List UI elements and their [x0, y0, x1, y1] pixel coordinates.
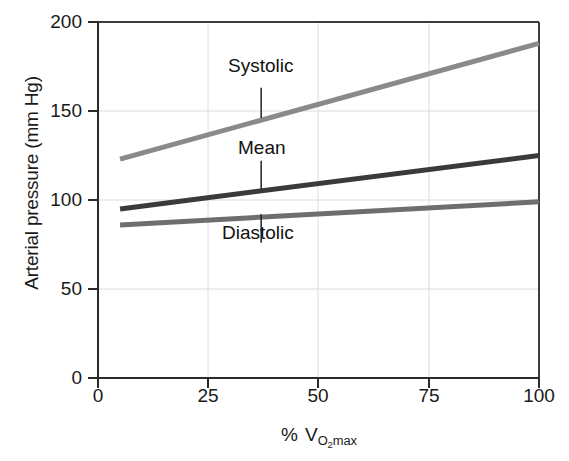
series-line-systolic	[120, 43, 539, 159]
x-axis-title-o-letter: O	[318, 433, 328, 448]
y-tick-150: 150	[30, 101, 82, 120]
x-axis-title-percent: %	[281, 424, 298, 445]
y-tick-200: 200	[30, 12, 82, 31]
x-axis-title-v: V	[305, 424, 318, 445]
x-tick-25: 25	[178, 385, 238, 407]
x-tick-50: 50	[288, 385, 348, 407]
x-tick-label: 25	[178, 385, 238, 407]
x-tick-label: 75	[399, 385, 459, 407]
y-tick-label: 150	[30, 101, 82, 120]
series-annotation-mean: Mean	[238, 137, 286, 159]
x-axis-title: %VO2max	[98, 424, 540, 450]
y-axis-ticks	[88, 22, 98, 378]
series-annotation-diastolic: Diastolic	[222, 222, 294, 244]
y-tick-100: 100	[30, 190, 82, 209]
x-tick-label: 50	[288, 385, 348, 407]
y-tick-label: 200	[30, 12, 82, 31]
series-annotation-systolic: Systolic	[228, 55, 293, 77]
series-line-mean	[120, 156, 539, 209]
y-tick-50: 50	[30, 279, 82, 298]
y-tick-label: 50	[30, 279, 82, 298]
series-line-diastolic	[120, 202, 539, 225]
x-tick-label: 100	[509, 385, 569, 407]
x-tick-0: 0	[68, 385, 128, 407]
chart-figure: Arterial pressure (mm Hg)	[0, 0, 569, 461]
x-axis-title-max: max	[333, 433, 357, 448]
x-tick-75: 75	[399, 385, 459, 407]
y-tick-label: 100	[30, 190, 82, 209]
x-axis-title-o: O2max	[318, 433, 357, 448]
series-group	[120, 43, 539, 225]
x-tick-label: 0	[68, 385, 128, 407]
x-tick-100: 100	[509, 385, 569, 407]
